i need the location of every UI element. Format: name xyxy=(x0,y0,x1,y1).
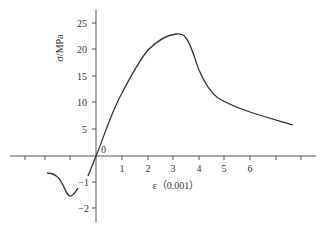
x-axis-label: ε（0.001） xyxy=(153,180,200,191)
origin-label: 0 xyxy=(101,144,106,155)
compression-curve-near-origin xyxy=(88,156,96,176)
y-tick-label: −2 xyxy=(78,203,89,214)
y-tick-label: −1 xyxy=(78,177,89,188)
y-ticks xyxy=(92,23,96,208)
y-tick-label: 15 xyxy=(77,71,87,82)
compression-curve xyxy=(47,173,78,196)
x-tick-label: 5 xyxy=(222,163,227,174)
y-tick-label: 25 xyxy=(77,18,87,29)
x-tick-label: 6 xyxy=(248,163,253,174)
x-tick-label: 4 xyxy=(197,163,202,174)
stress-strain-chart: 1 2 3 4 5 6 5 10 15 20 25 −1 −2 0 ε（0.00… xyxy=(0,0,323,232)
x-tick-label: 3 xyxy=(171,163,176,174)
y-tick-label: 5 xyxy=(82,124,87,135)
tension-curve xyxy=(96,34,293,156)
y-tick-label: 10 xyxy=(77,97,87,108)
y-axis-label: σ/MPa xyxy=(54,34,65,62)
x-tick-label: 1 xyxy=(120,163,125,174)
y-tick-label: 20 xyxy=(77,44,87,55)
x-tick-label: 2 xyxy=(146,163,151,174)
x-ticks xyxy=(25,156,301,160)
